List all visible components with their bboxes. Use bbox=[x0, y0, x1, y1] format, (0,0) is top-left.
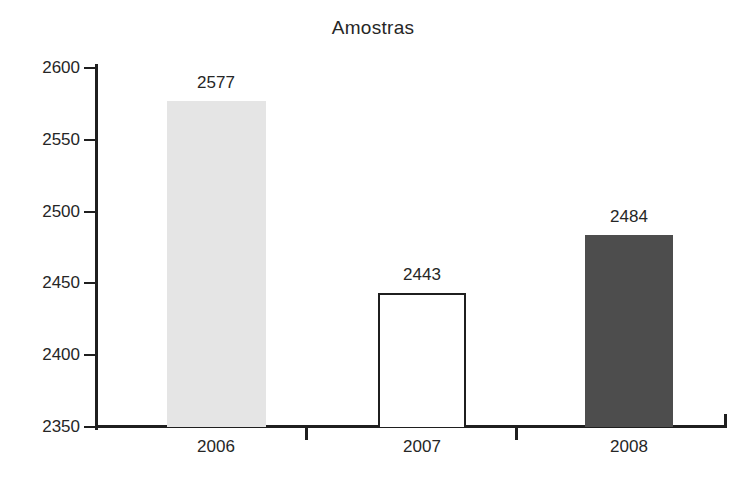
y-axis-tick-label: 2550 bbox=[14, 130, 80, 150]
y-axis-tick bbox=[84, 67, 96, 69]
x-axis-separator-tick bbox=[515, 427, 518, 440]
y-axis-tick-label: 2450 bbox=[14, 273, 80, 293]
x-axis-separator-tick bbox=[305, 427, 308, 440]
y-axis-line bbox=[95, 64, 98, 430]
x-axis-end-tick bbox=[724, 414, 727, 427]
y-axis-tick-label: 2500 bbox=[14, 202, 80, 222]
y-axis-tick-label: 2350 bbox=[14, 417, 80, 437]
y-axis-tick bbox=[84, 354, 96, 356]
y-axis-tick-label: 2600 bbox=[14, 58, 80, 78]
y-axis-tick bbox=[84, 426, 96, 428]
y-axis-tick bbox=[84, 211, 96, 213]
y-axis-tick bbox=[84, 139, 96, 141]
chart-title: Amostras bbox=[0, 17, 746, 39]
bar-value-label-2007: 2443 bbox=[362, 265, 482, 285]
bar-2008[interactable] bbox=[585, 235, 673, 427]
bar-chart: Amostras 260025502500245024002350 257724… bbox=[0, 0, 746, 484]
x-axis-label-2007: 2007 bbox=[362, 437, 482, 457]
y-axis-tick bbox=[84, 282, 96, 284]
bar-value-label-2008: 2484 bbox=[569, 207, 689, 227]
x-axis-label-2006: 2006 bbox=[156, 437, 276, 457]
bar-2007[interactable] bbox=[378, 293, 466, 427]
y-axis-tick-label: 2400 bbox=[14, 345, 80, 365]
x-axis-label-2008: 2008 bbox=[569, 437, 689, 457]
bar-2006[interactable] bbox=[167, 101, 266, 427]
bar-value-label-2006: 2577 bbox=[156, 73, 276, 93]
